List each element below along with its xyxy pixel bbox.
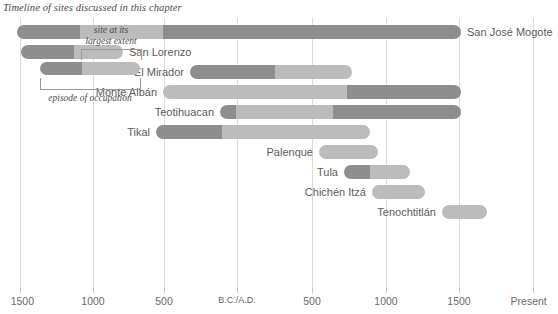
timeline-row: Chichén Itzá (0, 185, 558, 199)
timeline-row: San Lorenzo (0, 45, 558, 59)
bar-label-chich-n-itz: Chichén Itzá (305, 185, 366, 199)
timeline-bar[interactable] (319, 145, 378, 159)
axis-tick-2 (164, 288, 165, 293)
timeline-bar[interactable] (163, 85, 461, 99)
axis-tick-label-3: B.C./A.D. (218, 295, 256, 305)
timeline-bar[interactable] (220, 105, 461, 119)
axis-tick-6 (459, 288, 460, 293)
axis-tick-label-1: 1000 (81, 295, 104, 307)
axis-tick-label-7: Present (511, 295, 547, 307)
bar-segment-largest-extent (222, 125, 370, 139)
axis-tick-0 (20, 288, 21, 293)
bar-segment-occupation (190, 65, 275, 79)
bar-label-palenque: Palenque (267, 145, 314, 159)
bar-segment-occupation (333, 105, 461, 119)
timeline-bar[interactable] (190, 65, 352, 79)
bar-segment-largest-extent (80, 25, 163, 39)
timeline-row: Tenochtitlán (0, 205, 558, 219)
axis-tick-label-2: 500 (155, 295, 173, 307)
timeline-row: Palenque (0, 145, 558, 159)
axis-tick-5 (386, 288, 387, 293)
bar-segment-occupation (21, 45, 74, 59)
bar-label-tikal: Tikal (127, 125, 150, 139)
plot-area: San José MogoteSan LorenzoEl MiradorMont… (0, 18, 558, 288)
bar-segment-occupation (347, 85, 461, 99)
bar-segment-occupation (220, 105, 236, 119)
timeline-row: Tula (0, 165, 558, 179)
bar-label-tenochtitl-n: Tenochtitlán (377, 205, 436, 219)
bar-segment-occupation (17, 25, 80, 39)
bar-segment-largest-extent (74, 45, 123, 59)
x-axis: 15001000500B.C./A.D.50010001500Present (0, 288, 558, 314)
axis-tick-3 (237, 288, 238, 293)
bar-label-san-jos-mogote: San José Mogote (467, 25, 553, 39)
bar-segment-occupation (163, 25, 461, 39)
bar-segment-largest-extent (275, 65, 352, 79)
bar-segment-largest-extent (163, 85, 347, 99)
bar-segment-occupation (344, 165, 370, 179)
axis-tick-4 (312, 288, 313, 293)
bar-segment-largest-extent (319, 145, 378, 159)
timeline-row: El Mirador (0, 65, 558, 79)
bar-label-teotihuacan: Teotihuacan (155, 105, 214, 119)
bar-label-san-lorenzo: San Lorenzo (129, 45, 191, 59)
timeline-bar[interactable] (21, 45, 123, 59)
timeline-row: Teotihuacan (0, 105, 558, 119)
axis-tick-1 (93, 288, 94, 293)
timeline-chart: Timeline of sites discussed in this chap… (0, 0, 558, 314)
chart-title: Timeline of sites discussed in this chap… (3, 2, 182, 13)
axis-tick-label-4: 500 (303, 295, 321, 307)
timeline-bar[interactable] (156, 125, 370, 139)
timeline-bar[interactable] (372, 185, 425, 199)
bar-label-el-mirador: El Mirador (134, 65, 184, 79)
timeline-row: Monte Albán (0, 85, 558, 99)
bar-segment-largest-extent (236, 105, 333, 119)
bar-segment-occupation (156, 125, 222, 139)
bar-segment-largest-extent (442, 205, 487, 219)
axis-tick-7 (533, 288, 534, 293)
axis-tick-label-5: 1000 (374, 295, 397, 307)
bar-segment-largest-extent (370, 165, 410, 179)
bar-label-monte-alb-n: Monte Albán (96, 85, 157, 99)
timeline-row: Tikal (0, 125, 558, 139)
bar-label-tula: Tula (317, 165, 338, 179)
timeline-row: San José Mogote (0, 25, 558, 39)
bar-segment-largest-extent (372, 185, 425, 199)
axis-tick-label-6: 1500 (447, 295, 470, 307)
timeline-bar[interactable] (442, 205, 487, 219)
axis-tick-label-0: 1500 (11, 295, 34, 307)
timeline-bar[interactable] (344, 165, 410, 179)
timeline-bar[interactable] (17, 25, 461, 39)
